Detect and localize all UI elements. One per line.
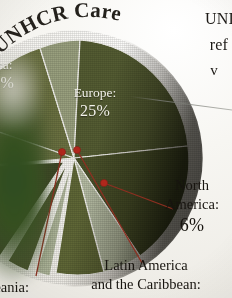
label-latin-america-line1: Latin America — [70, 256, 222, 275]
side-paragraph-cropped: UNI ref v — [138, 6, 232, 82]
side-paragraph-line-3: v — [138, 58, 232, 82]
side-paragraph-line-2: ref — [138, 32, 232, 58]
printed-page-photo: frica: 25% Europe: 25% r UNHCR Care UNI … — [0, 0, 232, 298]
label-north-america: North America: 6% — [152, 176, 232, 237]
pie-label-europe: Europe: 25% — [48, 84, 142, 122]
pie-label-europe-value: 25% — [48, 101, 142, 121]
label-north-america-line1: North — [152, 176, 232, 195]
label-latin-america: Latin America and the Caribbean: — [70, 256, 222, 294]
side-paragraph-line-1: UNI — [138, 6, 232, 32]
label-north-america-line2: America: — [152, 195, 232, 214]
label-north-america-value: 6% — [152, 214, 232, 237]
label-latin-america-line2: and the Caribbean: — [70, 275, 222, 294]
page-edge-blur-highlight — [0, 50, 40, 130]
